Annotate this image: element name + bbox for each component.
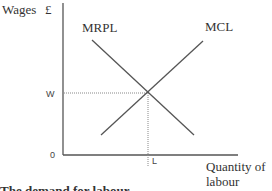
y-axis-label: Wages	[2, 2, 36, 17]
equilibrium-wage-label: W	[46, 89, 55, 99]
mcl-curve	[101, 41, 203, 135]
y-axis-unit: £	[45, 2, 52, 17]
x-axis-label-line1: Quantity of	[206, 159, 266, 174]
mrpl-label: MRPL	[82, 20, 117, 35]
mcl-label: MCL	[205, 19, 233, 34]
labour-market-diagram: Wages £ MRPL MCL W 0 L Quantity of labou…	[0, 0, 272, 191]
equilibrium-quantity-label: L	[152, 156, 157, 166]
diagram-title: The demand for labour	[0, 183, 130, 191]
origin-label: 0	[50, 150, 55, 160]
mrpl-curve	[92, 40, 194, 135]
diagram-canvas: Wages £ MRPL MCL W 0 L Quantity of labou…	[0, 0, 272, 191]
x-axis-label-line2: labour	[206, 174, 240, 189]
